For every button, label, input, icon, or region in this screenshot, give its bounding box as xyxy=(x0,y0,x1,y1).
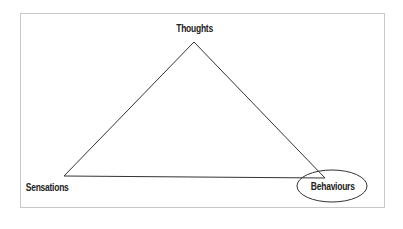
node-label-thoughts: Thoughts xyxy=(176,23,213,34)
cognitive-triangle xyxy=(0,0,403,229)
node-label-sensations: Sensations xyxy=(26,182,69,193)
triangle-shape xyxy=(64,42,325,178)
node-label-behaviours: Behaviours xyxy=(311,181,355,192)
